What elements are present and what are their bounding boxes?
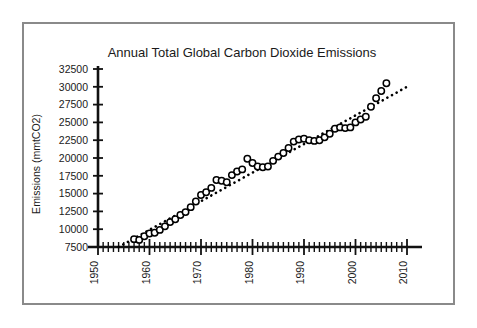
y-axis: 7500100001250015000175002000022500250002…: [59, 63, 103, 253]
data-point: [182, 209, 188, 215]
x-tick-label: 2000: [346, 261, 358, 285]
carbon-dioxide-emissions-chart: Annual Total Global Carbon Dioxide Emiss…: [24, 24, 453, 303]
data-point: [265, 163, 271, 169]
figure-border: Annual Total Global Carbon Dioxide Emiss…: [22, 22, 455, 305]
data-point: [188, 204, 194, 210]
data-point: [285, 145, 291, 151]
y-tick-label: 32500: [59, 63, 88, 75]
data-point: [193, 198, 199, 204]
x-tick-label: 2010: [397, 261, 409, 285]
y-tick-label: 27500: [59, 98, 88, 110]
data-point: [368, 104, 374, 110]
data-point-markers: [131, 80, 390, 243]
data-point: [373, 95, 379, 101]
x-tick-label: 1990: [294, 261, 306, 285]
x-tick-label: 1950: [88, 261, 100, 285]
data-point: [239, 166, 245, 172]
data-point: [383, 80, 389, 86]
y-tick-label: 12500: [59, 205, 88, 217]
x-tick-label: 1980: [243, 261, 255, 285]
y-tick-label: 25000: [59, 116, 88, 128]
data-point: [327, 131, 333, 137]
y-tick-label: 10000: [59, 223, 88, 235]
data-point: [280, 150, 286, 156]
data-point: [378, 88, 384, 94]
data-point: [224, 179, 230, 185]
y-tick-label: 30000: [59, 81, 88, 93]
y-tick-label: 17500: [59, 170, 88, 182]
data-point: [363, 114, 369, 120]
data-point: [347, 124, 353, 130]
y-tick-label: 22500: [59, 134, 88, 146]
chart-title: Annual Total Global Carbon Dioxide Emiss…: [108, 45, 377, 60]
y-tick-label: 20000: [59, 152, 88, 164]
y-axis-title: Emissions (mmtCO2): [30, 114, 42, 214]
x-tick-label: 1970: [191, 261, 203, 285]
data-point: [208, 185, 214, 191]
y-tick-label: 7500: [65, 241, 89, 253]
y-tick-label: 15000: [59, 187, 88, 199]
x-tick-label: 1960: [140, 261, 152, 285]
